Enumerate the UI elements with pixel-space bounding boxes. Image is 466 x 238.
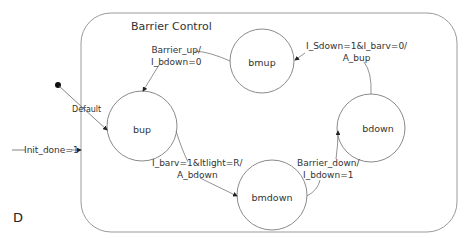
- state-label-bdown: bdown: [362, 123, 394, 134]
- transition-label-bmup-to-bup: Barrier_up/ I_bdown=0: [151, 44, 201, 68]
- composite-state-title: Barrier Control: [131, 20, 212, 33]
- state-label-bmup: bmup: [248, 57, 275, 68]
- transition-label-entry: Init_done=1: [24, 144, 79, 156]
- transition-label-bmdown-to-bdown: Barrier_down/ I_bdown=1: [297, 157, 360, 181]
- state-label-bmdown: bmdown: [252, 192, 293, 203]
- corner-label: D: [13, 210, 23, 225]
- state-label-bup: bup: [133, 124, 151, 135]
- transition-label-bup-to-bmdown: I_barv=1&Itlight=R/ A_bdown: [152, 157, 243, 181]
- state-diagram-canvas: [0, 0, 466, 238]
- transition-label-default: Default: [72, 104, 101, 116]
- transition-label-bdown-to-bmup: I_Sdown=1&I_barv=0/ A_bup: [306, 40, 407, 64]
